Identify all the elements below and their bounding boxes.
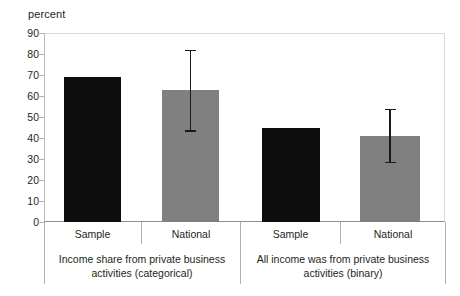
y-axis-label-30: 30 [13,154,39,165]
error-bar-cap-bottom [385,162,396,164]
y-axis-label-50: 50 [13,112,39,123]
group-caption-1: Income share from private business activ… [44,252,240,280]
x-axis-separator-right [445,222,446,284]
x-axis-label-group1-national: National [142,228,240,240]
y-axis-tick-90 [38,33,44,34]
y-axis-label-10: 10 [13,196,39,207]
error-bar-stem [190,50,192,132]
error-bar-stem [389,109,391,164]
y-axis-tick-20 [38,180,44,181]
group-caption-2-line2: activities (binary) [241,266,445,280]
x-axis-label-group2-sample: Sample [241,228,340,240]
error-bar-group2-national [360,109,420,164]
y-axis-label-20: 20 [13,175,39,186]
error-bar-cap-top [385,109,396,111]
group-caption-1-line1: Income share from private business [44,252,240,266]
group-caption-2-line1: All income was from private business [241,252,445,266]
group-caption-1-line2: activities (categorical) [44,266,240,280]
group-caption-2: All income was from private business act… [241,252,445,280]
error-bar-cap-top [185,50,196,52]
error-bar-cap-bottom [185,130,196,132]
y-axis-label-80: 80 [13,49,39,60]
y-axis-tick-60 [38,96,44,97]
y-axis-tick-30 [38,159,44,160]
y-axis-tick-70 [38,75,44,76]
y-axis-tick-80 [38,54,44,55]
y-axis-unit-label: percent [28,8,65,20]
x-axis-label-group2-national: National [341,228,445,240]
y-axis-label-40: 40 [13,133,39,144]
error-bar-group1-national [162,50,219,132]
y-axis-label-0: 0 [13,217,39,228]
bar-group2-sample [262,128,320,223]
bar-group1-sample [64,77,121,222]
y-axis-label-70: 70 [13,70,39,81]
y-axis-tick-10 [38,201,44,202]
y-axis-tick-50 [38,117,44,118]
y-axis-label-60: 60 [13,91,39,102]
y-axis-tick-40 [38,138,44,139]
x-axis-label-group1-sample: Sample [44,228,141,240]
chart-container: percent 90 80 70 60 50 40 30 20 10 0 Sam… [0,0,460,296]
y-axis-label-90: 90 [13,28,39,39]
